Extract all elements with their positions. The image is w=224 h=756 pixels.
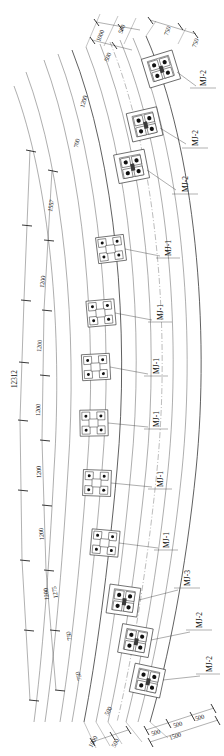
mj-tag-j8: MJ-1 [156, 471, 165, 487]
dim-1200-d: 1200 [35, 466, 42, 478]
text-layer: 1000 500 500 750 750 1200 700 1557 1200 … [0, 0, 224, 756]
mj-tag-j7: MJ-1 [152, 411, 161, 427]
dim-1200-top: 1200 [78, 95, 88, 108]
dim-top-1000: 1000 [94, 29, 105, 43]
drawing-canvas: 1000 500 500 750 750 1200 700 1557 1200 … [0, 0, 224, 756]
dim-750-a: 750 [64, 631, 73, 641]
dim-overall-span: 12312 [11, 370, 19, 388]
dim-1557: 1557 [46, 198, 55, 212]
dim-1200-b: 1200 [35, 340, 43, 352]
mj-tag-j12: MJ-2 [205, 656, 214, 672]
dim-base-total-1500: 1500 [168, 731, 182, 741]
mj-tag-j11: MJ-2 [195, 612, 204, 628]
dim-base-500-b: 500 [172, 720, 183, 729]
dim-1200-e: 1200 [37, 528, 45, 540]
dim-bot-1000: 1000 [87, 735, 99, 749]
dim-1275: 1275 [50, 586, 59, 599]
mj-tag-j1: MJ-2 [199, 70, 208, 86]
dim-bot-500-a: 500 [103, 705, 113, 716]
dim-base-500-a: 500 [150, 728, 161, 737]
dim-700: 700 [72, 138, 81, 148]
mj-tag-j2: MJ-2 [191, 130, 200, 146]
dim-top-750-b: 750 [190, 38, 199, 49]
mj-tag-j4: MJ-1 [164, 240, 173, 256]
mj-tag-j9: MJ-1 [162, 532, 171, 548]
dim-base-500-c: 500 [194, 713, 205, 722]
dim-bot-500-b: 500 [110, 737, 120, 748]
dim-top-500-b: 500 [102, 51, 112, 62]
dim-top-750-a: 750 [162, 26, 171, 37]
dim-1200-f: 1200 [42, 588, 50, 601]
mj-tag-j5: MJ-1 [156, 304, 165, 320]
mj-tag-j3: MJ-2 [181, 176, 190, 192]
dim-1200-c: 1200 [34, 404, 41, 416]
dim-top-500-a: 500 [116, 23, 126, 34]
mj-tag-j6: MJ-1 [152, 358, 161, 374]
mj-tag-j10: MJ-3 [183, 570, 192, 586]
dim-1200-a: 1200 [38, 275, 46, 288]
dim-750-b: 750 [74, 671, 83, 682]
